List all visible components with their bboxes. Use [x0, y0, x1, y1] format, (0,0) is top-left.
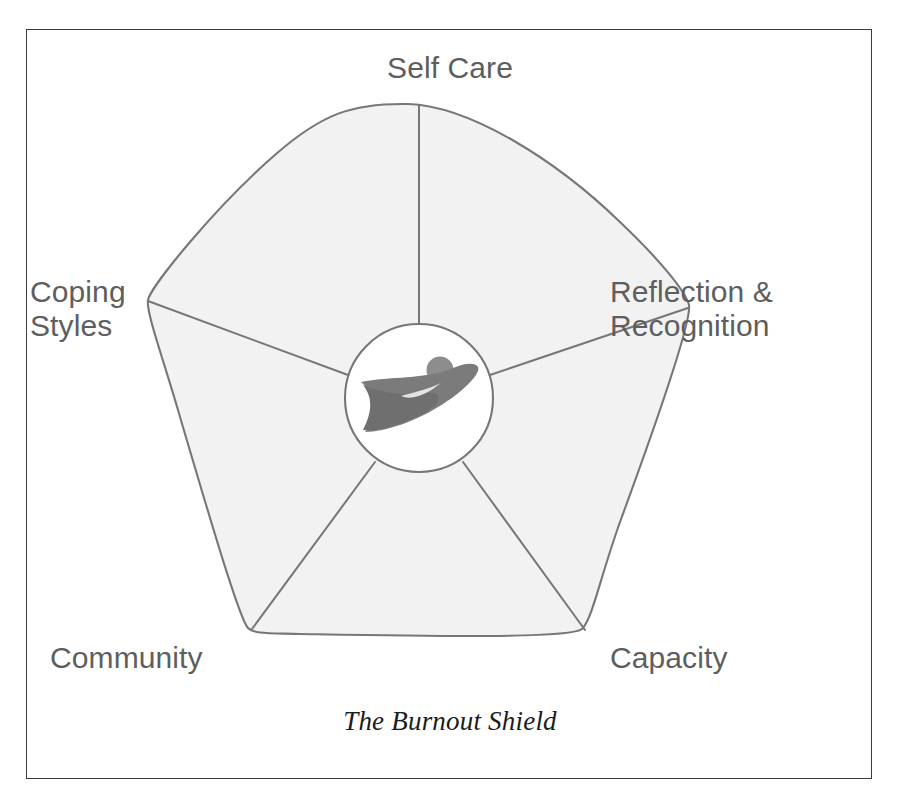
burnout-shield-figure: Self Care Reflection & Recognition Capac…: [0, 0, 900, 809]
pentagon-wheel-diagram: [0, 0, 900, 809]
segment-label-capacity: Capacity: [610, 641, 850, 675]
segment-label-self-care: Self Care: [0, 51, 900, 85]
figure-caption: The Burnout Shield: [0, 706, 900, 737]
segment-label-coping-styles: Coping Styles: [30, 275, 230, 343]
segment-label-reflection-recognition: Reflection & Recognition: [610, 275, 860, 343]
segment-label-community: Community: [50, 641, 310, 675]
